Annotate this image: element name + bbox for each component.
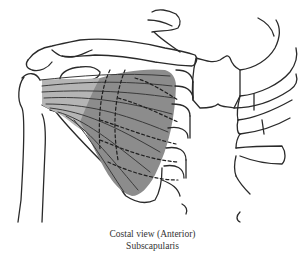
caption-muscle: Subscapularis xyxy=(0,240,305,252)
anatomy-figure: Costal view (Anterior) Subscapularis xyxy=(0,0,305,264)
subscapularis-illustration xyxy=(0,0,305,225)
subscapularis-muscle xyxy=(40,69,178,196)
clavicle xyxy=(26,39,196,70)
humerus xyxy=(18,74,45,222)
caption-view: Costal view (Anterior) xyxy=(0,228,305,240)
sternum xyxy=(192,56,240,108)
figure-caption: Costal view (Anterior) Subscapularis xyxy=(0,228,305,252)
ribs-right xyxy=(234,18,297,222)
